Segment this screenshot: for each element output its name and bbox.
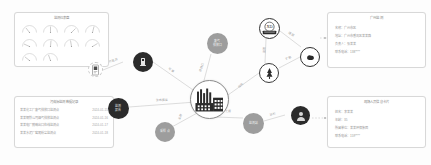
gauge-grid (15, 21, 108, 63)
edge-hub-report (129, 102, 196, 107)
node-hub-factory[interactable] (190, 80, 229, 119)
info-panel-top: 广州监测 名称：广州市区 地址：广州市番禺区某某路 负责人：张某某 联系电话：1… (327, 12, 426, 68)
info-row: 名称：广州市区 (328, 24, 425, 32)
edge-tree-cloud (279, 57, 300, 68)
info-panel-bottom: 现场人员信息卡片 姓名：李某某 年龄：35 所属单位：某某环保集团 联系电话：1… (327, 96, 426, 148)
table-cell-value: 2024-01-16 (92, 115, 108, 123)
gauge-10 (41, 50, 60, 63)
node-badge[interactable]: XD (259, 18, 280, 39)
gauge-4 (83, 22, 102, 35)
node-cloud[interactable] (300, 47, 320, 67)
info-row: 联系电话：159**** (328, 132, 425, 140)
gauge-panel-title: 监测仪表盘 (15, 13, 108, 21)
edge-hub-sample (170, 112, 199, 128)
edge-badge-tree (265, 39, 266, 63)
info-row: 联系电话：138**** (328, 48, 425, 56)
connector-dot-info-bottom (324, 117, 326, 119)
node-device[interactable] (88, 62, 103, 77)
tree-icon (264, 67, 275, 80)
node-report[interactable]: 监测 报告 (108, 98, 129, 119)
info-row: 姓名：李某某 (328, 108, 425, 116)
table-cell-value: 2024-01-18 (92, 130, 108, 138)
table-row[interactable]: 某某钢铁公司烟气排放监测点 2024-01-16 (15, 115, 113, 123)
table-cell-label: 某某钢铁公司烟气排放监测点 (20, 115, 88, 123)
node-inspector[interactable] (291, 106, 310, 125)
svg-text:XD: XD (266, 24, 272, 29)
edge-hub-tree (228, 73, 259, 95)
info-panel-bottom-body: 姓名：李某某 年龄：35 所属单位：某某环保集团 联系电话：159**** (328, 105, 425, 140)
table-cell-value: 2024-01-15 (92, 107, 108, 115)
node-station[interactable]: 监测站 (243, 113, 264, 134)
meter-device-icon (91, 64, 100, 76)
cloud-icon (306, 53, 315, 62)
person-icon (295, 110, 307, 122)
diagram-canvas: 实时监测 安装 排放口 绿化 扩散 监管 通报 生成报告 采样 上报 巡检 监测… (0, 0, 431, 165)
badge-icon: XD (261, 20, 278, 37)
node-sensor[interactable] (133, 52, 153, 72)
info-row: 年龄：35 (328, 116, 425, 124)
gauge-6 (41, 36, 60, 49)
table-row[interactable]: 某某水泥厂窑尾粉尘监测点 2024-01-18 (15, 130, 113, 138)
node-emission-label: 废气 排放口 (213, 40, 222, 47)
table-cell-label: 某某化工厂废气排放口监测点 (20, 107, 88, 115)
gauge-8 (83, 36, 102, 49)
table-cell-value: 2024-01-17 (92, 122, 108, 130)
info-panel-top-body: 名称：广州市区 地址：广州市番禺区某某路 负责人：张某某 联系电话：138***… (328, 21, 425, 56)
node-emission[interactable]: 废气 排放口 (207, 33, 228, 54)
table-panel-title: 污染源监测数据记录 (15, 97, 113, 105)
info-panel-top-title: 广州监测 (328, 13, 425, 21)
table-row[interactable]: 某某化工厂废气排放口监测点 2024-01-15 (15, 107, 113, 115)
node-sample[interactable]: 采样点 (155, 122, 175, 142)
gauge-3 (62, 22, 81, 35)
info-panel-bottom-title: 现场人员信息卡片 (328, 97, 425, 105)
data-table-panel: 污染源监测数据记录 某某化工厂废气排放口监测点 2024-01-15 某某钢铁公… (14, 96, 114, 148)
table-row[interactable]: 某某电厂脱硫出口在线监测点 2024-01-17 (15, 122, 113, 130)
node-station-label: 监测站 (249, 122, 258, 125)
node-tree[interactable] (259, 63, 279, 83)
node-sample-label: 采样点 (160, 130, 169, 133)
gauge-5 (20, 36, 39, 49)
info-row: 所属单位：某某环保集团 (328, 124, 425, 132)
edge-badge-cloud (280, 31, 301, 47)
edge-hub-station (215, 117, 243, 118)
edge-station-inspector (264, 115, 285, 121)
connector-dot-info-top (324, 37, 326, 39)
gauge-2 (41, 22, 60, 35)
gauge-panel: 监测仪表盘 (14, 12, 109, 67)
gauge-7 (62, 36, 81, 49)
factory-icon (193, 87, 227, 113)
table-cell-label: 某某水泥厂窑尾粉尘监测点 (20, 130, 88, 138)
sensor-icon (137, 56, 149, 68)
info-row: 负责人：张某某 (328, 40, 425, 48)
table-cell-label: 某某电厂脱硫出口在线监测点 (20, 122, 88, 130)
edge-sensor-hub (153, 62, 196, 92)
table-body: 某某化工厂废气排放口监测点 2024-01-15 某某钢铁公司烟气排放监测点 2… (15, 105, 113, 137)
gauge-1 (20, 22, 39, 35)
gauge-9 (20, 50, 39, 63)
info-row: 地址：广州市番禺区某某路 (328, 32, 425, 40)
node-report-label: 监测 报告 (115, 105, 121, 112)
